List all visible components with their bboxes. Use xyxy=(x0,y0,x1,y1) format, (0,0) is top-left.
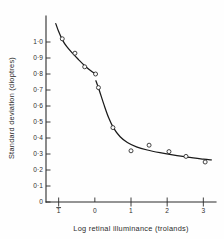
data-point-marker xyxy=(203,160,207,164)
data-point-marker xyxy=(83,65,87,69)
y-tick-label: 0 xyxy=(39,198,43,205)
chart-figure: 00·10·20·30·40·50·60·70·80·91·0 10123 Lo… xyxy=(0,0,224,239)
data-point-marker xyxy=(94,72,98,76)
data-point-marker xyxy=(184,154,188,158)
y-tick-label: 1·0 xyxy=(33,38,43,45)
y-tick-label: 0·4 xyxy=(33,134,43,141)
x-tick-label: 3 xyxy=(201,207,205,214)
x-axis-title: Log retinal illuminance (trolands) xyxy=(73,224,188,233)
x-tick-labels: 10123 xyxy=(57,207,206,214)
data-point-marker xyxy=(111,126,115,130)
y-tick-label: 0·3 xyxy=(33,150,43,157)
y-tick-labels: 00·10·20·30·40·50·60·70·80·91·0 xyxy=(33,38,43,205)
y-tick-label: 0·5 xyxy=(33,118,43,125)
data-points xyxy=(60,37,207,164)
x-tick-label: 2 xyxy=(165,207,169,214)
data-point-marker xyxy=(96,86,100,90)
y-tick-label: 0·8 xyxy=(33,70,43,77)
x-tick-label: 0 xyxy=(93,207,97,214)
x-tick-label: 1 xyxy=(57,207,61,214)
data-point-marker xyxy=(129,149,133,153)
y-tick-label: 0·9 xyxy=(33,54,43,61)
data-point-marker xyxy=(167,150,171,154)
data-point-marker xyxy=(60,37,64,41)
y-tick-label: 0·2 xyxy=(33,166,43,173)
axes xyxy=(46,16,216,202)
x-tick-label: 1 xyxy=(129,207,133,214)
data-point-marker xyxy=(73,51,77,55)
y-tick-label: 0·7 xyxy=(33,86,43,93)
y-tick-label: 0·6 xyxy=(33,102,43,109)
y-tick-marks xyxy=(46,42,51,202)
fitted-curve-cone-branch xyxy=(96,81,211,160)
data-point-marker xyxy=(147,143,151,147)
y-axis-title: Standard deviation (dioptres) xyxy=(7,57,16,159)
fitted-curve-rod-branch xyxy=(56,24,96,74)
y-tick-label: 0·1 xyxy=(33,182,43,189)
chart-canvas: 00·10·20·30·40·50·60·70·80·91·0 10123 Lo… xyxy=(0,0,224,239)
